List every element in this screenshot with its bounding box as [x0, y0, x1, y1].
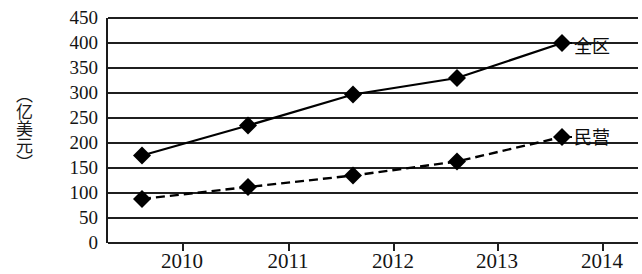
y-axis-tick-label: 300	[70, 83, 99, 102]
gridline	[108, 42, 638, 44]
gridline	[108, 92, 638, 94]
gridline	[108, 142, 638, 144]
x-axis-tick-label: 2012	[372, 250, 414, 272]
y-axis-tick-label: 450	[70, 8, 99, 27]
gridline	[108, 217, 638, 219]
gridline	[108, 167, 638, 169]
series-label-total: 全区	[574, 37, 610, 56]
x-axis-tick-label: 2011	[267, 250, 308, 272]
plot-area	[106, 18, 636, 243]
chart-figure: （亿美元） 450400350300250200150100500 201020…	[0, 0, 642, 274]
y-axis-tick-label: 350	[70, 58, 99, 77]
y-axis-tick-label: 150	[70, 158, 99, 177]
y-axis-tick-label: 100	[70, 183, 99, 202]
y-axis-tick-label: 50	[79, 208, 98, 227]
gridline	[108, 192, 638, 194]
y-axis-tick-labels: 450400350300250200150100500	[34, 0, 102, 274]
x-axis-tick-label: 2010	[161, 250, 203, 272]
gridline	[108, 17, 638, 19]
x-axis-tick-label: 2014	[581, 250, 623, 272]
y-axis-unit-label: （亿美元）	[2, 86, 32, 171]
y-axis-tick-label: 200	[70, 133, 99, 152]
series-label-private: 民营	[574, 128, 610, 147]
y-axis-tick-label: 400	[70, 33, 99, 52]
y-axis-tick-label: 250	[70, 108, 99, 127]
x-axis-tick-label: 2013	[476, 250, 518, 272]
y-axis-tick-label: 0	[89, 233, 99, 252]
gridline	[108, 67, 638, 69]
gridline	[108, 117, 638, 119]
gridline	[108, 242, 638, 244]
